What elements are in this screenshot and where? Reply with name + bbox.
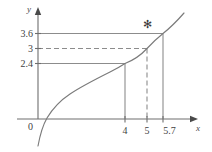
curve-lower-segment <box>38 64 125 147</box>
x-tick-label-4: 4 <box>113 126 137 136</box>
x-axis-arrow <box>190 116 198 122</box>
y-axis-label: y <box>27 5 31 14</box>
x-axis-label: x <box>196 124 200 133</box>
y-tick-label-2-4: 2.4 <box>4 59 33 69</box>
y-axis-arrow <box>35 7 41 15</box>
y-tick-label-3: 3 <box>4 44 33 54</box>
x-tick-label-5-7: 5.7 <box>156 126 183 136</box>
graph-figure: y x 0 3.6 3 2.4 4 5 5.7 ✻ <box>0 0 212 152</box>
y-tick-label-3-6: 3.6 <box>4 29 33 39</box>
curve-upper-segment <box>125 13 184 64</box>
origin-label: 0 <box>28 122 33 132</box>
x-tick-label-5: 5 <box>137 126 157 136</box>
asterisk-mark-icon: ✻ <box>143 19 152 30</box>
x-axis-group <box>17 116 198 122</box>
